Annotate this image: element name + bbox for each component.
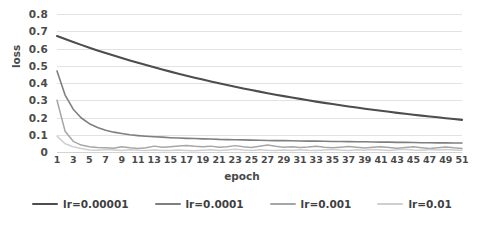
- plot-area: [57, 14, 462, 152]
- legend-label: lr=0.001: [301, 198, 352, 210]
- legend-item[interactable]: lr=0.01: [377, 198, 451, 210]
- legend-label: lr=0.01: [408, 198, 451, 210]
- legend-line-icon: [155, 203, 181, 205]
- x-axis-tick-label: 1: [54, 154, 61, 165]
- x-axis-tick-label: 13: [148, 154, 161, 165]
- y-axis-tick-label: 0.1: [29, 129, 48, 141]
- x-axis-tick-labels: 1357911131517192123252729313335373941434…: [57, 154, 462, 168]
- chart-legend: lr=0.00001lr=0.0001lr=0.001lr=0.01: [0, 198, 484, 210]
- x-axis-tick-label: 33: [310, 154, 323, 165]
- x-axis-title: epoch: [0, 170, 484, 182]
- series-line: [57, 71, 462, 143]
- x-axis-tick-label: 41: [374, 154, 387, 165]
- y-axis-tick-label: 0.7: [29, 25, 48, 37]
- x-axis-tick-label: 39: [358, 154, 371, 165]
- legend-label: lr=0.00001: [63, 198, 128, 210]
- y-axis-tick-labels: 0.80.70.60.50.40.30.20.10: [0, 0, 53, 166]
- x-axis-tick-label: 9: [118, 154, 125, 165]
- x-axis-tick-label: 35: [326, 154, 339, 165]
- x-axis-tick-label: 17: [180, 154, 193, 165]
- x-axis-tick-label: 37: [342, 154, 355, 165]
- x-axis-tick-label: 25: [245, 154, 258, 165]
- x-axis-tick-label: 47: [423, 154, 436, 165]
- legend-item[interactable]: lr=0.00001: [32, 198, 128, 210]
- gridline: [57, 152, 462, 153]
- x-axis-tick-label: 29: [277, 154, 290, 165]
- y-axis-tick-label: 0.6: [29, 43, 48, 55]
- y-axis-tick-label: 0.5: [29, 60, 48, 72]
- x-axis-tick-label: 5: [86, 154, 93, 165]
- legend-label: lr=0.0001: [186, 198, 244, 210]
- y-axis-tick-label: 0.3: [29, 94, 48, 106]
- x-axis-tick-label: 21: [212, 154, 225, 165]
- x-axis-tick-label: 15: [164, 154, 177, 165]
- x-axis-tick-label: 43: [391, 154, 404, 165]
- legend-line-icon: [32, 203, 58, 205]
- x-axis-tick-label: 27: [261, 154, 274, 165]
- series-line: [57, 36, 462, 120]
- x-axis-tick-label: 51: [455, 154, 468, 165]
- legend-item[interactable]: lr=0.001: [270, 198, 352, 210]
- y-axis-tick-label: 0.4: [29, 77, 48, 89]
- x-axis-tick-label: 23: [229, 154, 242, 165]
- legend-item[interactable]: lr=0.0001: [155, 198, 244, 210]
- x-axis-tick-label: 49: [439, 154, 452, 165]
- series-line: [57, 100, 462, 148]
- y-axis-tick-label: 0: [40, 146, 48, 158]
- x-axis-tick-label: 3: [70, 154, 77, 165]
- x-axis-tick-label: 45: [407, 154, 420, 165]
- series-layer: [57, 14, 462, 152]
- x-axis-tick-label: 11: [131, 154, 144, 165]
- y-axis-tick-label: 0.2: [29, 112, 48, 124]
- x-axis-tick-label: 19: [196, 154, 209, 165]
- x-axis-tick-label: 7: [102, 154, 109, 165]
- legend-line-icon: [377, 203, 403, 205]
- legend-line-icon: [270, 203, 296, 205]
- x-axis-tick-label: 31: [293, 154, 306, 165]
- chart-figure: loss 0.80.70.60.50.40.30.20.10 135791113…: [0, 0, 484, 228]
- y-axis-tick-label: 0.8: [29, 8, 48, 20]
